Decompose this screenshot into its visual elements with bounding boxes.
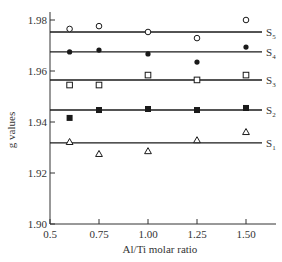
x-tick-label: 0.5 — [43, 228, 57, 240]
series-labels: S5S4S3S2S1 — [266, 26, 276, 152]
open-triangle-marker — [243, 129, 250, 135]
open-circle-marker — [243, 17, 249, 23]
open-triangle-marker — [145, 148, 152, 154]
open-circle-marker — [194, 35, 200, 41]
series-label-s4: S4 — [266, 46, 276, 61]
filled-circle-marker — [194, 59, 199, 64]
chart: 1.901.921.941.961.980.50.751.001.251.50 … — [0, 0, 282, 262]
filled-circle-marker — [96, 47, 101, 52]
filled-square-marker — [67, 115, 73, 121]
y-tick-label: 1.94 — [28, 116, 48, 128]
series-label-s3: S3 — [266, 74, 276, 89]
series-label-s5: S5 — [266, 26, 276, 41]
x-axis-label: Al/Ti molar ratio — [123, 243, 198, 255]
open-square-marker — [243, 72, 249, 78]
filled-square-marker — [194, 107, 200, 113]
filled-square-marker — [243, 105, 249, 111]
open-square-marker — [96, 82, 102, 88]
y-tick-label: 1.96 — [28, 65, 48, 77]
x-tick-label: 1.00 — [138, 228, 158, 240]
x-tick-label: 1.25 — [187, 228, 207, 240]
open-circle-marker — [145, 29, 151, 35]
x-tick-label: 1.50 — [236, 228, 256, 240]
series-label-s1: S1 — [266, 137, 276, 152]
filled-circle-marker — [67, 49, 72, 54]
open-square-marker — [67, 82, 73, 88]
open-square-marker — [194, 77, 200, 83]
filled-square-marker — [145, 106, 151, 112]
open-circle-marker — [96, 23, 102, 29]
y-tick-label: 1.92 — [28, 167, 47, 179]
open-circle-marker — [67, 26, 73, 32]
y-axis-label: g values — [5, 112, 17, 148]
series-label-s2: S2 — [266, 104, 276, 119]
open-triangle-marker — [194, 137, 201, 143]
x-tick-label: 0.75 — [89, 228, 109, 240]
data-points — [66, 17, 249, 156]
open-square-marker — [145, 72, 151, 78]
y-tick-label: 1.98 — [28, 14, 48, 26]
open-triangle-marker — [66, 138, 73, 144]
filled-square-marker — [96, 107, 102, 113]
filled-circle-marker — [145, 51, 150, 56]
filled-circle-marker — [243, 44, 248, 49]
axes: 1.901.921.941.961.980.50.751.001.251.50 — [28, 12, 276, 240]
fit-lines — [50, 32, 262, 143]
open-triangle-marker — [96, 150, 103, 156]
